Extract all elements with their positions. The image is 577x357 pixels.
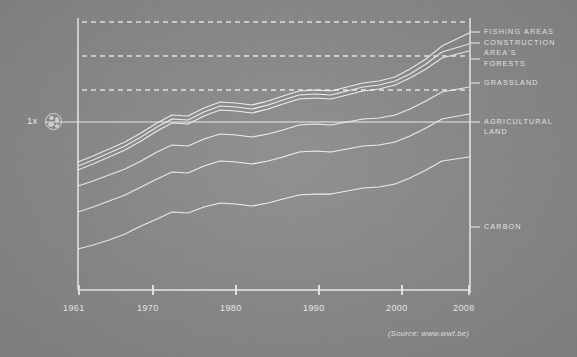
category-label-grassland: GRASSLAND bbox=[484, 79, 539, 87]
x-tick-label-1990: 1990 bbox=[303, 303, 325, 313]
boundary-carbon bbox=[78, 157, 469, 249]
x-tick-label-1961: 1961 bbox=[63, 303, 85, 313]
category-label-fishing-areas: FISHING AREAS bbox=[484, 28, 554, 36]
stacked-area-boundaries bbox=[78, 33, 469, 249]
boundary-fishing-areas bbox=[78, 33, 469, 162]
x-tick-label-2008: 2008 bbox=[453, 303, 475, 313]
category-label-carbon: CARBON bbox=[484, 223, 522, 231]
source-note: (Source: www.wwf.be) bbox=[388, 330, 469, 339]
x-tick-label-1980: 1980 bbox=[220, 303, 242, 313]
x-tick-label-2000: 2000 bbox=[386, 303, 408, 313]
boundary-construction-areas bbox=[78, 44, 469, 166]
chart-figure: FISHING AREAS CONSTRUCTION AREA'S FOREST… bbox=[0, 0, 577, 357]
category-tick-connectors bbox=[471, 32, 480, 227]
category-label-agricultural-land: AGRICULTURAL bbox=[484, 118, 553, 126]
category-label-forests: FORESTS bbox=[484, 60, 526, 68]
category-label-construction-areas-line2: AREA'S bbox=[484, 49, 517, 57]
gridlines bbox=[82, 22, 470, 90]
x-tick-label-1970: 1970 bbox=[137, 303, 159, 313]
globe-icon bbox=[45, 113, 62, 130]
category-label-construction-areas: CONSTRUCTION bbox=[484, 39, 556, 47]
category-label-agricultural-land-line2: LAND bbox=[484, 128, 508, 136]
one-planet-label: 1x bbox=[27, 116, 38, 127]
